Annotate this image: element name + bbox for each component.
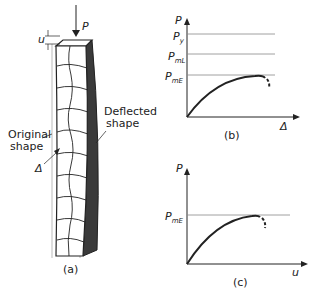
b-x-label: Δ — [279, 120, 288, 133]
b-curve-dashed — [267, 79, 269, 88]
column-diagram: P u Deflected shape Original shape Δ (a) — [8, 5, 157, 276]
b-y-arrow-icon — [184, 18, 190, 25]
load-label: P — [82, 20, 89, 33]
b-curve — [187, 76, 265, 117]
c-y-arrow-icon — [184, 168, 190, 175]
delta-leader-line — [44, 153, 56, 164]
c-curve — [187, 216, 260, 264]
b-pml-label: PmL — [168, 50, 185, 65]
c-y-label: P — [176, 162, 183, 175]
c-curve-dashed — [262, 218, 265, 228]
chart-b: P Py PmL PmE Δ (b) — [165, 14, 300, 142]
displacement-u-label: u — [38, 33, 45, 46]
c-x-label: u — [292, 266, 299, 279]
caption-b: (b) — [224, 129, 240, 142]
b-y-label: P — [175, 14, 182, 27]
delta-label: Δ — [34, 162, 43, 175]
chart-c: P PmE u (c) — [165, 162, 308, 289]
c-x-arrow-icon — [301, 261, 308, 267]
b-py-label: Py — [173, 30, 185, 45]
b-x-arrow-icon — [293, 114, 300, 120]
load-arrow-head-icon — [72, 30, 80, 37]
original-shape-label-line2: shape — [10, 140, 43, 153]
deflected-shape-label-line2: shape — [106, 117, 139, 130]
figure-canvas: P u Deflected shape Original shape Δ (a)… — [0, 0, 313, 289]
c-pme-label: PmE — [165, 210, 183, 225]
caption-c: (c) — [233, 276, 248, 289]
caption-a: (a) — [63, 263, 78, 276]
b-pme-label: PmE — [165, 70, 183, 85]
column-top-face — [56, 40, 92, 46]
